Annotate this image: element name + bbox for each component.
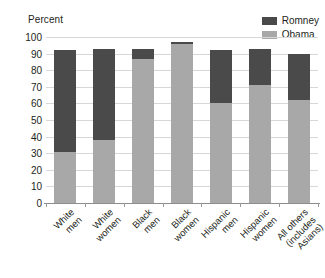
y-axis-tick-labels: 1009080706050403020100 bbox=[0, 37, 42, 203]
bar-segment-romney[interactable] bbox=[171, 42, 193, 44]
y-axis-tick-label: 60 bbox=[2, 98, 42, 109]
y-axis-tick-label: 20 bbox=[2, 164, 42, 175]
y-axis-title: Percent bbox=[28, 14, 63, 25]
bar-segment-romney[interactable] bbox=[210, 50, 232, 103]
bar-segment-obama[interactable] bbox=[249, 85, 271, 203]
bar-segment-romney[interactable] bbox=[288, 54, 310, 100]
y-axis-tick-label: 90 bbox=[2, 48, 42, 59]
y-axis-tick-label: 30 bbox=[2, 148, 42, 159]
bar-segment-obama[interactable] bbox=[288, 100, 310, 203]
plot-area bbox=[46, 37, 318, 203]
legend-item-romney: Romney bbox=[262, 15, 319, 26]
y-axis-tick-label: 100 bbox=[2, 32, 42, 43]
y-axis-tick-label: 80 bbox=[2, 65, 42, 76]
stacked-bar-chart: Percent Romney Obama 1009080706050403020… bbox=[0, 0, 325, 278]
y-axis-tick-label: 10 bbox=[2, 181, 42, 192]
y-axis-tick-label: 70 bbox=[2, 81, 42, 92]
legend-label-romney: Romney bbox=[282, 15, 319, 26]
bar-segment-obama[interactable] bbox=[171, 44, 193, 203]
bar-segment-romney[interactable] bbox=[54, 50, 76, 151]
bar-segment-romney[interactable] bbox=[249, 49, 271, 86]
y-axis-tick-label: 0 bbox=[2, 198, 42, 209]
bar-series-container bbox=[46, 37, 318, 203]
bar-segment-romney[interactable] bbox=[93, 49, 115, 140]
y-axis-tick-label: 50 bbox=[2, 115, 42, 126]
x-axis-category-labels: White menWhite womenBlack menBlack women… bbox=[46, 207, 325, 278]
bar-segment-obama[interactable] bbox=[54, 152, 76, 203]
bar-segment-romney[interactable] bbox=[132, 49, 154, 59]
bar-segment-obama[interactable] bbox=[210, 103, 232, 203]
legend-swatch-romney bbox=[262, 17, 277, 25]
y-axis-tick-label: 40 bbox=[2, 131, 42, 142]
bar-segment-obama[interactable] bbox=[93, 140, 115, 203]
bar-segment-obama[interactable] bbox=[132, 59, 154, 203]
